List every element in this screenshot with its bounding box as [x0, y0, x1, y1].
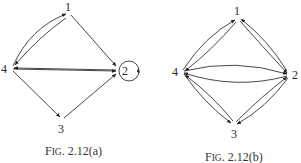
node-3-label: 3: [58, 122, 64, 136]
edge-1-4: [185, 22, 236, 71]
edge-1-2: [240, 21, 287, 73]
edge-2-3: [237, 78, 288, 124]
edge-2-4: [184, 73, 287, 82]
node-4-label: 4: [1, 62, 7, 76]
edge-4-1: [183, 20, 235, 70]
node-4-label: 4: [172, 65, 178, 79]
caption-a: FIG. 2.12(a): [45, 144, 102, 158]
node-1-label: 1: [65, 0, 71, 14]
node-2-label: 2: [122, 64, 128, 78]
figure-a: 1 2 3 4 FIG. 2.12(a): [1, 0, 140, 158]
edge-4-2: [184, 65, 287, 74]
edge-3-2: [64, 74, 116, 118]
figure-b: 1 2 3 4 FIG. 2.12(b): [172, 4, 298, 163]
node-3-label: 3: [231, 127, 237, 141]
node-1-label: 1: [234, 4, 240, 18]
caption-b: FIG. 2.12(b): [205, 150, 263, 163]
edge-3-2: [236, 77, 287, 122]
edge-2-1: [241, 19, 287, 71]
edge-1-4: [15, 18, 66, 65]
node-2-label: 2: [292, 68, 298, 82]
edge-1-2: [71, 15, 116, 66]
edge-4-3: [13, 71, 60, 117]
graph-figures: 1 2 3 4 FIG. 2.12(a) 1 2 3 4 FIG. 2.12(b…: [0, 0, 301, 163]
